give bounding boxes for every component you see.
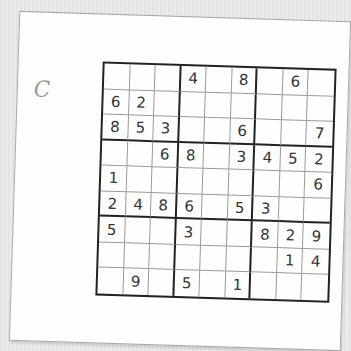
sudoku-cell-r9-c4[interactable]: 5: [174, 270, 200, 296]
sudoku-cell-r5-c9[interactable]: 6: [305, 172, 331, 198]
sudoku-cell-r8-c4[interactable]: [175, 245, 201, 271]
sudoku-paper-sheet: C 4866285367683452162486535382914951: [9, 11, 351, 351]
sudoku-cell-r1-c7[interactable]: [257, 68, 283, 94]
sudoku-cell-r2-c9[interactable]: [307, 96, 333, 122]
sudoku-cell-r9-c3[interactable]: [149, 270, 175, 296]
sudoku-cell-r4-c8[interactable]: 5: [280, 146, 306, 172]
sudoku-cell-r3-c5[interactable]: [204, 118, 230, 144]
sudoku-cell-r1-c9[interactable]: [308, 70, 334, 96]
sudoku-cell-r6-c1[interactable]: 2: [100, 191, 126, 217]
sudoku-cell-r2-c1[interactable]: 6: [103, 89, 129, 115]
sudoku-cell-r4-c1[interactable]: [101, 140, 127, 166]
sudoku-cell-r9-c2[interactable]: 9: [123, 269, 149, 295]
sudoku-cell-r8-c5[interactable]: [200, 246, 226, 272]
sudoku-cell-r2-c7[interactable]: [256, 94, 282, 120]
puzzle-label: C: [33, 76, 51, 102]
sudoku-cell-r4-c6[interactable]: 3: [229, 144, 255, 170]
sudoku-cell-r1-c8[interactable]: 6: [283, 69, 309, 95]
sudoku-cell-r8-c6[interactable]: [226, 246, 252, 272]
sudoku-cell-r9-c5[interactable]: [200, 271, 226, 297]
sudoku-cell-r4-c3[interactable]: 6: [153, 142, 179, 168]
sudoku-cell-r6-c9[interactable]: [304, 198, 330, 224]
sudoku-cell-r7-c3[interactable]: [150, 218, 176, 244]
sudoku-cell-r9-c9[interactable]: [302, 274, 328, 300]
sudoku-cell-r8-c7[interactable]: [251, 247, 277, 273]
sudoku-cell-r7-c4[interactable]: 3: [176, 219, 202, 245]
sudoku-cell-r3-c8[interactable]: [281, 120, 307, 146]
sudoku-cell-r1-c6[interactable]: 8: [232, 68, 258, 94]
sudoku-cell-r2-c5[interactable]: [205, 92, 231, 118]
sudoku-cell-r2-c2[interactable]: 2: [129, 90, 155, 116]
sudoku-cell-r3-c2[interactable]: 5: [128, 115, 154, 141]
sudoku-cell-r3-c4[interactable]: [179, 117, 205, 143]
sudoku-cell-r6-c4[interactable]: 6: [176, 194, 202, 220]
sudoku-cell-r4-c2[interactable]: [127, 141, 153, 167]
sudoku-cell-r1-c2[interactable]: [129, 64, 155, 90]
sudoku-cell-r4-c5[interactable]: [204, 143, 230, 169]
sudoku-cell-r7-c1[interactable]: 5: [99, 217, 125, 243]
sudoku-cell-r6-c6[interactable]: 5: [228, 195, 254, 221]
sudoku-cell-r9-c1[interactable]: [97, 268, 123, 294]
sudoku-cell-r5-c4[interactable]: [177, 168, 203, 194]
sudoku-cell-r7-c9[interactable]: 9: [303, 223, 329, 249]
sudoku-cell-r5-c6[interactable]: [228, 170, 254, 196]
sudoku-cell-r8-c3[interactable]: [149, 244, 175, 270]
sudoku-cell-r4-c9[interactable]: 2: [306, 147, 332, 173]
sudoku-cell-r7-c7[interactable]: 8: [252, 222, 278, 248]
sudoku-cell-r2-c4[interactable]: [180, 92, 206, 118]
sudoku-cell-r1-c3[interactable]: [155, 65, 181, 91]
sudoku-cell-r3-c9[interactable]: 7: [307, 121, 333, 147]
sudoku-cell-r9-c6[interactable]: 1: [225, 272, 251, 298]
sudoku-cell-r8-c9[interactable]: 4: [303, 249, 329, 275]
sudoku-cell-r6-c7[interactable]: 3: [253, 196, 279, 222]
sudoku-cell-r3-c3[interactable]: 3: [153, 116, 179, 142]
sudoku-cell-r7-c6[interactable]: [227, 221, 253, 247]
sudoku-cell-r3-c6[interactable]: 6: [230, 119, 256, 145]
sudoku-cell-r2-c3[interactable]: [154, 91, 180, 117]
sudoku-cell-r5-c3[interactable]: [152, 167, 178, 193]
sudoku-cell-r6-c8[interactable]: [279, 197, 305, 223]
sudoku-cell-r7-c8[interactable]: 2: [278, 222, 304, 248]
sudoku-cell-r7-c2[interactable]: [125, 218, 151, 244]
sudoku-grid: 4866285367683452162486535382914951: [95, 62, 336, 303]
sudoku-cell-r5-c1[interactable]: 1: [101, 166, 127, 192]
sudoku-cell-r7-c5[interactable]: [201, 220, 227, 246]
sudoku-cell-r3-c7[interactable]: [255, 119, 281, 145]
sudoku-cell-r1-c1[interactable]: [104, 64, 130, 90]
sudoku-cell-r9-c7[interactable]: [251, 273, 277, 299]
sudoku-cell-r8-c1[interactable]: [98, 242, 124, 268]
sudoku-cell-r5-c7[interactable]: [254, 171, 280, 197]
sudoku-cell-r5-c8[interactable]: [279, 171, 305, 197]
sudoku-cell-r5-c5[interactable]: [203, 169, 229, 195]
sudoku-cell-r9-c8[interactable]: [276, 274, 302, 300]
sudoku-cell-r8-c2[interactable]: [124, 243, 150, 269]
sudoku-cell-r6-c5[interactable]: [202, 194, 228, 220]
sudoku-cell-r1-c5[interactable]: [206, 67, 232, 93]
sudoku-cell-r2-c6[interactable]: [231, 93, 257, 119]
sudoku-cell-r3-c1[interactable]: 8: [102, 115, 128, 141]
sudoku-cell-r5-c2[interactable]: [126, 167, 152, 193]
sudoku-cell-r4-c7[interactable]: 4: [255, 145, 281, 171]
sudoku-cell-r8-c8[interactable]: 1: [277, 248, 303, 274]
sudoku-cell-r1-c4[interactable]: 4: [180, 66, 206, 92]
sudoku-cell-r2-c8[interactable]: [282, 95, 308, 121]
sudoku-cell-r6-c2[interactable]: 4: [125, 192, 151, 218]
sudoku-cell-r4-c4[interactable]: 8: [178, 143, 204, 169]
sudoku-cell-r6-c3[interactable]: 8: [151, 193, 177, 219]
